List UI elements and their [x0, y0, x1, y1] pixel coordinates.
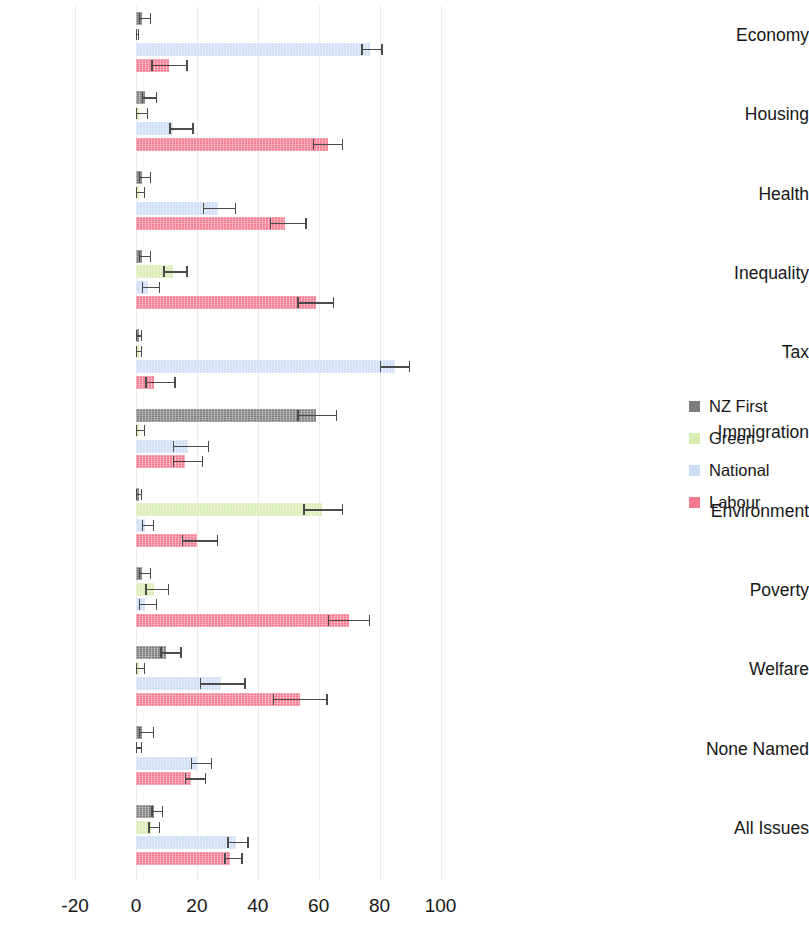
bar-row: [0, 91, 809, 104]
error-bar: [380, 360, 410, 373]
error-bar-cap-high: [141, 330, 142, 341]
error-bar-cap-high: [153, 520, 154, 531]
bar-row: [0, 455, 809, 468]
error-bar: [160, 646, 181, 659]
bars-layer: [0, 6, 809, 880]
error-bar-cap-low: [136, 742, 137, 753]
error-bar-cap-low: [313, 139, 314, 150]
bar-row: [0, 534, 809, 547]
bar-national: [136, 43, 370, 56]
error-bar: [303, 503, 343, 516]
x-tick-label: 60: [289, 895, 349, 917]
error-bar-cap-low: [139, 599, 140, 610]
bar-row: [0, 409, 809, 422]
bar-nz-first: [136, 409, 316, 422]
bar-row: [0, 12, 809, 25]
error-bar-cap-low: [328, 615, 329, 626]
error-bar-line: [200, 683, 246, 684]
legend-item-labour[interactable]: Labour: [689, 486, 770, 518]
error-bar-line: [185, 778, 206, 779]
error-bar-cap-low: [160, 647, 161, 658]
error-bar-cap-low: [224, 853, 225, 864]
error-bar-cap-low: [142, 92, 143, 103]
error-bar: [200, 677, 246, 690]
error-bar-cap-high: [192, 123, 193, 134]
error-bar-cap-low: [136, 330, 137, 341]
error-bar-cap-high: [336, 410, 337, 421]
legend-label: National: [709, 462, 770, 479]
error-bar-line: [169, 128, 193, 129]
error-bar: [361, 43, 382, 56]
bar-green: [136, 503, 322, 516]
error-bar-cap-low: [270, 218, 271, 229]
error-bar-cap-high: [180, 647, 181, 658]
error-bar-cap-high: [235, 203, 236, 214]
legend-item-national[interactable]: National: [689, 454, 770, 486]
error-bar-line: [173, 461, 203, 462]
error-bar: [139, 250, 151, 263]
bar-national: [136, 360, 395, 373]
error-bar-cap-low: [136, 425, 137, 436]
error-bar: [273, 693, 328, 706]
bar-labour: [136, 772, 191, 785]
error-bar-cap-high: [208, 441, 209, 452]
error-bar: [136, 329, 142, 342]
bar-row: [0, 43, 809, 56]
x-tick-label: -20: [45, 895, 105, 917]
error-bar-cap-low: [151, 806, 152, 817]
error-bar-cap-high: [202, 456, 203, 467]
error-bar-cap-high: [381, 44, 382, 55]
error-bar: [136, 741, 142, 754]
error-bar-cap-low: [361, 44, 362, 55]
error-bar-cap-low: [139, 172, 140, 183]
error-bar: [227, 836, 248, 849]
bar-row: [0, 296, 809, 309]
error-bar-cap-low: [185, 773, 186, 784]
legend-item-green[interactable]: Green: [689, 422, 770, 454]
error-bar-cap-low: [297, 410, 298, 421]
error-bar: [163, 265, 187, 278]
error-bar: [151, 59, 188, 72]
error-bar: [270, 217, 307, 230]
error-bar-cap-high: [305, 218, 306, 229]
error-bar: [136, 488, 142, 501]
error-bar-cap-high: [144, 663, 145, 674]
error-bar-cap-low: [139, 568, 140, 579]
legend: NZ FirstGreenNationalLabour: [689, 390, 770, 518]
error-bar-line: [163, 271, 187, 272]
bar-row: [0, 250, 809, 263]
bar-row: [0, 186, 809, 199]
error-bar-cap-low: [163, 266, 164, 277]
error-bar: [136, 186, 145, 199]
error-bar-cap-low: [191, 758, 192, 769]
error-bar-line: [297, 302, 334, 303]
error-bar-cap-high: [241, 853, 242, 864]
bar-row: [0, 440, 809, 453]
error-bar-cap-high: [409, 361, 410, 372]
bar-row: [0, 741, 809, 754]
bar-row: [0, 202, 809, 215]
error-bar-cap-high: [138, 29, 139, 40]
error-bar-cap-low: [173, 456, 174, 467]
bar-row: [0, 122, 809, 135]
error-bar-line: [380, 366, 410, 367]
error-bar-cap-high: [326, 694, 327, 705]
bar-row: [0, 360, 809, 373]
bar-row: [0, 583, 809, 596]
chart-root: EconomyHousingHealthInequalityTaxImmigra…: [0, 0, 809, 928]
error-bar-cap-high: [141, 489, 142, 500]
error-bar-line: [297, 415, 337, 416]
bar-row: [0, 772, 809, 785]
error-bar-cap-low: [182, 535, 183, 546]
error-bar: [142, 519, 154, 532]
bar-labour: [136, 138, 328, 151]
error-bar-cap-high: [211, 758, 212, 769]
error-bar: [297, 409, 337, 422]
error-bar-line: [270, 223, 307, 224]
error-bar: [142, 91, 157, 104]
error-bar-cap-high: [153, 727, 154, 738]
error-bar-cap-low: [169, 123, 170, 134]
legend-item-nz-first[interactable]: NZ First: [689, 390, 770, 422]
error-bar: [145, 376, 175, 389]
error-bar-cap-low: [136, 108, 137, 119]
